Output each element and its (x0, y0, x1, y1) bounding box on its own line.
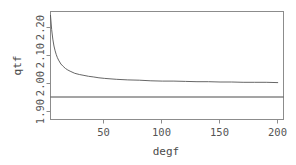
x-axis-title: degf (153, 145, 180, 158)
y-axis-ticks (47, 28, 51, 112)
x-axis-ticks (104, 120, 278, 124)
y-tick-labels: 1.90 2.00 2.10 2.20 (34, 15, 46, 124)
y-tick-label-2: 2.10 (34, 43, 46, 68)
y-tick-label-1: 2.00 (34, 71, 46, 96)
y-tick-label-0: 1.90 (34, 99, 46, 124)
x-tick-label-1: 100 (152, 126, 171, 138)
x-tick-label-0: 50 (97, 126, 110, 138)
y-tick-label-3: 2.20 (34, 15, 46, 40)
chart-figure: 50 100 150 200 1.90 2.00 2.10 2.20 degf … (0, 0, 296, 165)
plot-panel-border (51, 12, 284, 120)
y-axis-title: qtf (11, 56, 24, 76)
data-curve-qtf (51, 15, 278, 82)
x-tick-label-3: 200 (268, 126, 287, 138)
x-tick-labels: 50 100 150 200 (97, 126, 287, 138)
x-tick-label-2: 150 (210, 126, 229, 138)
plot-canvas: 50 100 150 200 1.90 2.00 2.10 2.20 degf … (0, 0, 296, 165)
